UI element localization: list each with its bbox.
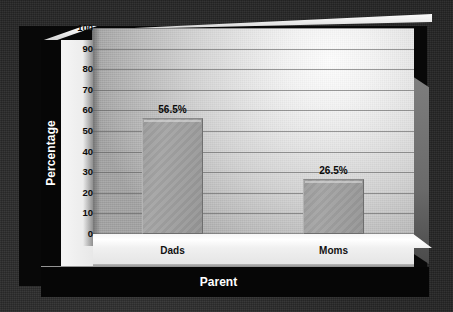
x-axis-title: Parent [41,267,396,297]
gridline [92,90,414,91]
bar [142,118,203,234]
gridline [92,152,414,153]
gridline [92,213,414,214]
gridline [92,131,414,132]
bar [303,179,364,234]
y-axis-tick-label: 100 [47,23,93,33]
x-axis-category-label: Dads [117,245,228,256]
gridline [92,28,414,29]
x-axis-category-label: Moms [278,245,389,256]
bar-value-label: 56.5% [122,104,223,115]
bar-top-highlight [144,120,201,122]
y-axis-title-text: Percentage [44,120,58,186]
gridline [92,69,414,70]
chart-screenshot: 56.5%26.5% 1009080706050403020100 Percen… [0,0,453,312]
bar-value-label: 26.5% [283,165,384,176]
plot-area [92,28,414,234]
gridline [92,193,414,194]
bar-chart-3d: 56.5%26.5% 1009080706050403020100 Percen… [19,14,437,286]
y-axis-title: Percentage [41,40,61,266]
bar-top-highlight [305,181,362,183]
x-axis-title-text: Parent [200,275,237,289]
gridline [92,49,414,50]
